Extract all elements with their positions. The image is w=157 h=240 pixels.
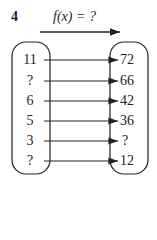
output-value: 42 — [120, 94, 134, 108]
input-value: ? — [18, 74, 42, 88]
output-value: ? — [122, 134, 128, 148]
input-value: 11 — [18, 53, 42, 67]
input-value: ? — [18, 154, 42, 168]
output-value: 66 — [120, 74, 134, 88]
output-value: 72 — [120, 53, 134, 67]
output-value: 12 — [120, 154, 134, 168]
output-value: 36 — [120, 114, 134, 128]
input-value: 5 — [18, 114, 42, 128]
input-value: 3 — [18, 134, 42, 148]
input-value: 6 — [18, 94, 42, 108]
